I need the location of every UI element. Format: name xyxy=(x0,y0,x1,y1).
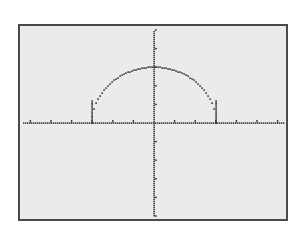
function-plot xyxy=(0,0,295,231)
